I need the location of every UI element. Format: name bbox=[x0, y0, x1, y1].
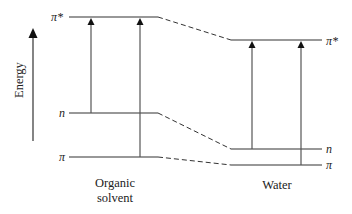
water-column: π* n π Water bbox=[231, 34, 338, 192]
energy-axis: Energy bbox=[12, 28, 38, 141]
organic-caption-line1: Organic bbox=[95, 176, 135, 190]
water-caption: Water bbox=[262, 178, 292, 192]
water-pi-label: π bbox=[326, 158, 333, 172]
organic-pi-star-label: π* bbox=[51, 10, 63, 24]
water-n-label: n bbox=[326, 142, 332, 156]
pi-connector bbox=[158, 157, 231, 165]
arrowhead-icon bbox=[298, 41, 305, 48]
water-pi-star-label: π* bbox=[326, 34, 338, 48]
pi-star-connector bbox=[158, 17, 231, 40]
organic-solvent-column: π* n π Organic solvent bbox=[51, 10, 158, 205]
arrowhead-icon bbox=[88, 18, 95, 25]
energy-level-diagram: Energy π* n π Organic solvent bbox=[0, 0, 352, 214]
energy-axis-label: Energy bbox=[12, 61, 26, 98]
arrowhead-icon bbox=[137, 18, 144, 25]
arrowhead-icon bbox=[249, 41, 256, 48]
organic-pi-label: π bbox=[59, 150, 66, 164]
n-connector bbox=[158, 113, 231, 149]
organic-caption-line2: solvent bbox=[97, 191, 134, 205]
axis-arrowhead-icon bbox=[29, 28, 38, 38]
organic-n-label: n bbox=[59, 106, 65, 120]
dashed-connectors bbox=[158, 17, 231, 165]
